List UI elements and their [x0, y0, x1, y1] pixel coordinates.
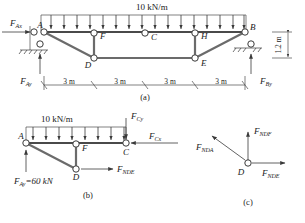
span-label-4: 3 m: [215, 77, 227, 86]
span-label-2: 3 m: [114, 77, 126, 86]
load-label-b: 10 kN/m: [41, 114, 73, 124]
reaction-Ay-label: FAy: [19, 76, 32, 87]
height-label-a: 1.2 m: [274, 36, 283, 53]
member-AD-b: [26, 143, 76, 169]
caption-b: (b): [83, 190, 93, 200]
joint-H: [192, 30, 198, 36]
joint-C: [142, 30, 148, 36]
caption-c: (c): [243, 197, 253, 207]
caption-a: (a): [140, 92, 150, 102]
joint-label-D-b: D: [72, 172, 80, 182]
joint-label-H: H: [200, 31, 208, 41]
force-Ay-label-b: FAy=60 kN: [13, 176, 54, 187]
joint-D: [91, 55, 97, 61]
joint-A-b: [23, 140, 29, 146]
force-NDF-label-c: FNDF: [253, 126, 272, 137]
joint-C-b: [123, 140, 129, 146]
joint-label-C-b: C: [123, 147, 130, 157]
load-arrows-a: [51, 15, 244, 29]
joint-F: [91, 30, 97, 36]
figure-container: 10 kN/m: [0, 0, 305, 223]
span-label-3: 3 m: [164, 77, 176, 86]
force-NDA-arrow-c: [212, 136, 245, 160]
joint-label-F: F: [99, 31, 106, 41]
force-NDA-label-c: FNDA: [195, 142, 214, 153]
joint-E: [192, 55, 198, 61]
member-AD: [44, 32, 94, 58]
reaction-Ax-label: FAx: [9, 18, 22, 29]
diagram-a: 10 kN/m: [2, 2, 292, 102]
load-label-a: 10 kN/m: [136, 2, 168, 12]
joint-label-F-b: F: [81, 143, 88, 153]
span-label-1: 3 m: [63, 77, 75, 86]
joint-label-E: E: [200, 58, 207, 68]
joint-label-A-b: A: [17, 131, 24, 141]
joint-label-C: C: [151, 32, 158, 42]
joint-D-c: [245, 160, 251, 166]
reaction-By-label: FBy: [259, 76, 272, 87]
figure-svg: 10 kN/m: [0, 0, 305, 223]
joint-B: [242, 29, 248, 35]
force-NDE-label-c: FNDE: [261, 168, 280, 179]
force-NDE-label-b: FNDE: [116, 164, 135, 175]
support-pin-B: [233, 41, 262, 52]
joint-label-B: B: [250, 22, 256, 32]
joint-F-b: [73, 141, 79, 147]
joint-label-A: A: [36, 20, 43, 30]
joint-label-D: D: [84, 60, 92, 70]
force-Cx-label-b: FCx: [148, 131, 162, 142]
diagram-c: D FNDA FNDF FNDE (c): [195, 126, 285, 207]
joint-label-D-c: D: [237, 167, 245, 177]
diagram-b: 10 kN/m A F C D FAy=6: [13, 111, 178, 200]
load-arrows-b: [33, 127, 124, 140]
force-Cy-label-b: FCy: [130, 111, 144, 122]
